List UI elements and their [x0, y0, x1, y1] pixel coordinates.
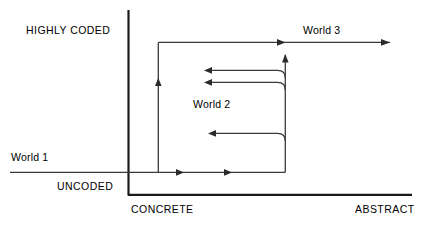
arrow-up-icon: [155, 78, 162, 86]
feedback-branch-upper: [212, 70, 285, 78]
axis-group: [128, 10, 412, 196]
feedback-branch-lower: [216, 133, 285, 141]
region-label-world-1: World 1: [11, 151, 48, 163]
axis-label-uncoded: UNCODED: [57, 180, 113, 192]
diagram-canvas: HIGHLY CODED UNCODED CONCRETE ABSTRACT W…: [0, 0, 422, 225]
axis-label-abstract: ABSTRACT: [355, 203, 415, 215]
arrow-up-icon: [282, 54, 289, 63]
flow-diagram: HIGHLY CODED UNCODED CONCRETE ABSTRACT W…: [0, 0, 422, 225]
arrow-left-icon: [204, 79, 212, 86]
axis-label-concrete: CONCRETE: [131, 203, 194, 215]
bottom-flow: [158, 169, 285, 176]
region-label-world-2: World 2: [193, 98, 230, 110]
arrow-right-icon: [277, 39, 286, 46]
arrow-right-icon: [381, 39, 390, 46]
arrow-right-icon: [224, 169, 232, 176]
arrow-right-icon: [176, 169, 184, 176]
feedback-branch-middle: [212, 82, 285, 90]
region-label-world-3: World 3: [303, 24, 340, 36]
arrow-left-icon: [204, 67, 212, 74]
left-riser-flow: [155, 42, 162, 172]
axis-label-highly-coded: HIGHLY CODED: [26, 24, 110, 36]
world-3-flow: [158, 39, 390, 46]
arrow-left-icon: [208, 130, 216, 137]
